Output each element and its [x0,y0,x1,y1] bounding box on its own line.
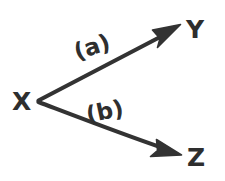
node-label-y: Y [185,15,205,44]
edge-b-label: (b) [84,95,126,128]
edge-b-arrowhead-icon [151,140,182,157]
node-label-z: Z [187,143,205,172]
edge-b-group: (b) [39,95,182,157]
node-label-x: X [12,87,31,116]
edge-a-group: (a) [39,25,181,101]
edge-a-arrowhead-icon [153,25,181,48]
edge-a-label: (a) [71,29,114,65]
diagram-svg: Point X with two arrows branching to the… [0,0,225,181]
diagram-canvas: Point X with two arrows branching to the… [0,0,225,181]
